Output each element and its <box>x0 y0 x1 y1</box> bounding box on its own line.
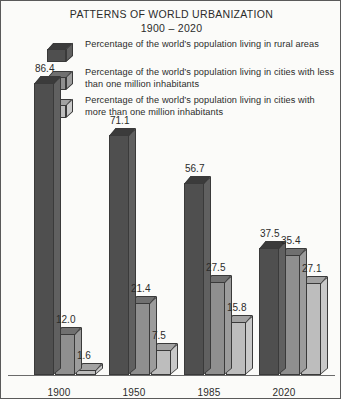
bar-value-label: 21.4 <box>131 283 150 294</box>
bar-value-label: 1.6 <box>77 350 91 361</box>
bar-side-face <box>128 128 136 375</box>
bar-side-face <box>320 277 328 375</box>
bar-value-label: 86.4 <box>35 63 54 74</box>
bar-value-label: 71.1 <box>110 115 129 126</box>
bar-side-face <box>203 177 211 375</box>
bar-value-label: 35.4 <box>281 235 300 246</box>
bar-group: 71.121.47.5 <box>109 374 179 375</box>
bar-value-label: 37.5 <box>260 228 279 239</box>
bar <box>34 83 54 375</box>
x-tick-label: 1950 <box>104 387 164 398</box>
bar-group: 56.727.515.8 <box>184 374 254 375</box>
bar-value-label: 12.0 <box>56 314 75 325</box>
bar <box>109 135 129 375</box>
bar-value-label: 15.8 <box>227 302 246 313</box>
x-axis-baseline <box>8 375 335 376</box>
bar-front-face <box>76 370 96 375</box>
x-tick-label: 2020 <box>254 387 314 398</box>
bar <box>184 183 204 375</box>
bar-value-label: 7.5 <box>152 330 166 341</box>
bar-side-face <box>224 275 232 375</box>
bar-group: 86.412.01.6 <box>34 374 104 375</box>
x-tick-label: 1900 <box>29 387 89 398</box>
bar <box>76 370 96 375</box>
x-tick-label: 1985 <box>179 387 239 398</box>
bar-front-face <box>184 183 204 375</box>
bar <box>259 248 279 375</box>
bar-front-face <box>259 248 279 375</box>
bar-group: 37.535.427.1 <box>259 374 329 375</box>
bar-side-face <box>53 76 61 375</box>
bar-value-label: 27.1 <box>302 263 321 274</box>
plot-area: 86.412.01.671.121.47.556.727.515.837.535… <box>1 1 341 399</box>
bar-front-face <box>109 135 129 375</box>
chart-figure: PATTERNS OF WORLD URBANIZATION 1900 – 20… <box>0 0 341 399</box>
bar-side-face <box>245 315 253 375</box>
bar-value-label: 56.7 <box>185 163 204 174</box>
bar-value-label: 27.5 <box>206 262 225 273</box>
bar-side-face <box>278 242 286 375</box>
bar-front-face <box>34 83 54 375</box>
